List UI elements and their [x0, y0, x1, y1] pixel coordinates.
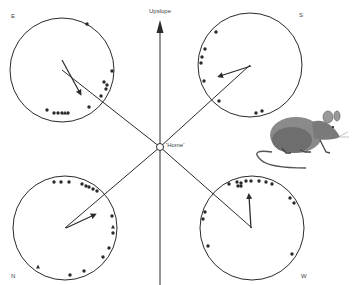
mean-vector-arrow-icon [249, 196, 251, 228]
data-point-dot [292, 201, 295, 204]
data-point-dot [288, 196, 291, 199]
data-point-dot [67, 180, 70, 183]
panel-label-e: E [11, 13, 15, 19]
data-point-dot [60, 111, 63, 114]
data-point-dot [239, 184, 242, 187]
data-point-dot [104, 87, 107, 90]
data-point-dot [95, 189, 98, 192]
data-point-dot [227, 182, 230, 185]
panel-label-s: S [299, 12, 303, 18]
data-point-dot [202, 79, 205, 82]
data-point-dot [105, 83, 108, 86]
data-point-dot [249, 179, 252, 182]
data-point-dot [254, 111, 257, 114]
data-point-dot [257, 179, 260, 182]
data-point-dot [85, 22, 88, 25]
data-point-dot [214, 30, 217, 33]
data-point-dot [80, 182, 83, 185]
data-point-dot [206, 244, 209, 247]
data-point-dot [199, 61, 202, 64]
panel-label-n: N [11, 273, 15, 279]
data-point-dot [68, 273, 71, 276]
data-point-dot [87, 105, 90, 108]
data-point-triangle-icon [111, 225, 115, 229]
data-point-dot [91, 187, 94, 190]
mean-vector-arrow-icon [66, 215, 94, 228]
data-point-dot [110, 69, 113, 72]
data-point-dot [82, 269, 85, 272]
data-point-dot [264, 180, 267, 183]
data-point-dot [203, 210, 206, 213]
data-point-dot [52, 111, 55, 114]
data-point-dot [244, 179, 247, 182]
data-point-dot [200, 55, 203, 58]
data-point-dot [217, 99, 220, 102]
data-point-dot [111, 231, 114, 234]
data-point-dot [59, 180, 62, 183]
data-point-dot [56, 111, 59, 114]
data-point-dot [290, 252, 293, 255]
data-point-dot [260, 109, 263, 112]
data-point-dot [52, 180, 55, 183]
data-point-dot [110, 214, 113, 217]
data-point-dot [235, 180, 238, 183]
data-point-dot [270, 182, 273, 185]
home-label: 'Home' [166, 142, 184, 148]
panel-label-w: W [301, 273, 307, 279]
data-point-dot [99, 94, 102, 97]
data-point-triangle-icon [36, 265, 40, 269]
upslope-label: Upslope [149, 8, 171, 14]
data-point-dot [236, 184, 239, 187]
data-point-dot [102, 80, 105, 83]
data-point-dot [45, 108, 48, 111]
mean-vector-arrow-icon [62, 60, 80, 93]
data-point-dot [84, 184, 87, 187]
data-point-dot [201, 217, 204, 220]
data-point-dot [107, 246, 110, 249]
mean-vector-arrow-icon [220, 66, 251, 76]
data-point-dot [101, 255, 104, 258]
data-point-dot [87, 185, 90, 188]
upslope-arrowhead-icon [157, 20, 164, 33]
diagonal-line-s [160, 65, 250, 147]
diagonal-line-e [62, 70, 160, 147]
home-marker [157, 144, 164, 151]
data-point-dot [66, 111, 69, 114]
mouse-illustration [257, 111, 349, 168]
data-point-dot [239, 181, 242, 184]
data-point-dot [203, 47, 206, 50]
